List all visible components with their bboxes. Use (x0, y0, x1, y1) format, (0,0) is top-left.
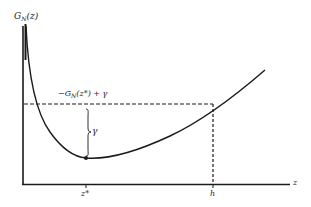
y-label-arg: (z) (26, 11, 38, 21)
level-label-rest: (z*) + γ (76, 89, 107, 98)
level-label-prefix: −G (58, 89, 71, 98)
y-axis-label: GN(z) (14, 12, 38, 22)
minimum-point (84, 156, 88, 160)
diagram-canvas (0, 0, 311, 207)
x-axis-label: z (293, 179, 297, 187)
level-label: −GN(z*) + γ (58, 90, 107, 99)
z-star-label: z* (81, 190, 89, 198)
gamma-brace (86, 109, 91, 156)
gamma-label: γ (92, 127, 97, 136)
h-label: h (210, 190, 215, 198)
